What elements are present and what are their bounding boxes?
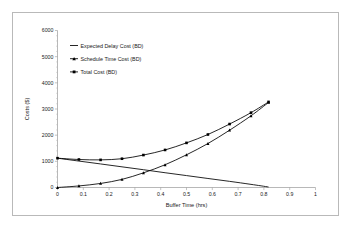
x-axis-tick-label: 0.2 xyxy=(105,191,112,197)
chart-figure: 010002000300040005000600000.10.20.30.40.… xyxy=(0,0,353,230)
x-axis-title: Buffer Time (hrs) xyxy=(166,202,208,208)
series-2-marker xyxy=(99,159,102,162)
series-2-marker xyxy=(78,158,81,161)
y-axis-tick-label: 4000 xyxy=(42,80,54,86)
x-axis-tick-label: 0.9 xyxy=(286,191,293,197)
series-1-marker xyxy=(206,142,209,145)
series-2-marker xyxy=(121,157,124,160)
legend-label-1: Schedule Time Cost (BD) xyxy=(81,56,142,62)
series-line-2 xyxy=(58,102,269,160)
series-2-marker xyxy=(185,142,188,145)
series-2-marker xyxy=(228,123,231,126)
y-axis-tick-label: 5000 xyxy=(42,54,54,60)
y-axis-tick-label: 1000 xyxy=(42,158,54,164)
series-line-0 xyxy=(58,158,269,187)
y-axis-tick-label: 6000 xyxy=(42,27,54,33)
series-2-marker xyxy=(142,154,145,157)
line-chart: 010002000300040005000600000.10.20.30.40.… xyxy=(0,0,353,230)
series-2-marker xyxy=(207,133,210,136)
series-line-1 xyxy=(58,102,269,187)
x-axis-tick-label: 0.6 xyxy=(209,191,216,197)
y-axis-title: Costs ($) xyxy=(24,98,30,121)
x-axis-tick-label: 0.4 xyxy=(157,191,164,197)
x-axis-tick-label: 0.8 xyxy=(260,191,267,197)
series-2-marker xyxy=(56,157,59,160)
x-axis-tick-label: 0 xyxy=(56,191,59,197)
x-axis-tick-label: 0.3 xyxy=(131,191,138,197)
x-axis-tick-label: 0.5 xyxy=(183,191,190,197)
y-axis-tick-label: 0 xyxy=(50,184,53,190)
series-2-marker xyxy=(267,101,270,104)
x-axis-tick-label: 0.1 xyxy=(80,191,87,197)
legend-swatch-square-2 xyxy=(73,71,76,74)
y-axis-tick-label: 3000 xyxy=(42,106,54,112)
x-axis-tick-label: 1 xyxy=(314,191,317,197)
series-2-marker xyxy=(164,149,167,152)
y-axis-tick-label: 2000 xyxy=(42,132,54,138)
series-2-marker xyxy=(250,111,253,114)
x-axis-tick-label: 0.7 xyxy=(234,191,241,197)
legend-label-2: Total Cost (BD) xyxy=(81,69,118,75)
legend-label-0: Expected Delay Cost (BD) xyxy=(81,43,144,49)
